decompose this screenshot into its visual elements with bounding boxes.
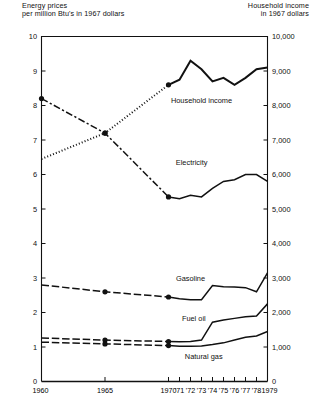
y-axis-tick-label: 8 [33,101,37,110]
chart-container: Energy prices per million Btu's in 1967 … [0,0,313,406]
y2-axis-tick-label: 7,000 [272,136,291,145]
x-axis-tick-label: '78 [252,386,261,395]
series-line-solid-natural-gas [169,331,268,346]
y2-axis-tick-label: 10,000 [272,32,295,41]
y-axis-tick-label: 4 [33,239,37,248]
series-label-electricity: Electricity [176,158,208,167]
x-axis-tick-label: 1979 [262,386,278,395]
series-label-fuel-oil: Fuel oil [182,314,206,323]
y2-axis-tick-label: 2,000 [272,308,291,317]
line-chart-plot: 01234567891001,0002,0003,0004,0005,0006,… [0,0,313,406]
series-line-electricity [42,99,169,197]
series-marker-natural-gas [102,341,107,346]
y-axis-tick-label: 0 [33,377,37,386]
x-axis-tick-label: 1960 [33,386,49,395]
y-axis-tick-label: 7 [33,136,37,145]
y-axis-tick-label: 9 [33,67,37,76]
series-line-solid-household-income [169,61,268,85]
series-label-gasoline: Gasoline [176,274,205,283]
y2-axis-tick-label: 3,000 [272,274,291,283]
x-axis-tick-label: '77 [241,386,250,395]
x-axis-tick-label: '76 [230,386,239,395]
x-axis-tick-label: '72 [186,386,195,395]
y2-axis-tick-label: 1,000 [272,343,291,352]
x-axis-tick-label: '71 [175,386,184,395]
y-axis-tick-label: 6 [33,170,37,179]
y2-axis-tick-label: 9,000 [272,67,291,76]
series-line-household-income [42,85,169,159]
x-axis-tick-label: '73 [197,386,206,395]
y-axis-tick-label: 1 [33,343,37,352]
y2-axis-tick-label: 4,000 [272,239,291,248]
x-axis-tick-label: 1965 [97,386,113,395]
series-marker-electricity [166,194,171,199]
y-axis-tick-label: 10 [29,32,37,41]
y2-axis-tick-label: 0 [272,377,276,386]
y2-axis-tick-label: 6,000 [272,170,291,179]
x-axis-tick-label: '75 [219,386,228,395]
y-axis-tick-label: 2 [33,308,37,317]
series-marker-electricity [39,96,44,101]
plot-frame [42,37,268,382]
series-line-solid-electricity [169,175,268,199]
series-marker-gasoline [102,289,107,294]
series-marker-gasoline [166,294,171,299]
series-label-household-income: Household income [171,96,232,105]
series-label-natural-gas: Natural gas [185,352,223,361]
series-marker-electricity [102,131,107,136]
series-marker-natural-gas [166,343,171,348]
x-axis-tick-label: '74 [208,386,217,395]
y-axis-tick-label: 3 [33,274,37,283]
y2-axis-tick-label: 8,000 [272,101,291,110]
series-marker-household-income [166,82,171,87]
y2-axis-tick-label: 5,000 [272,205,291,214]
y-axis-tick-label: 5 [33,205,37,214]
